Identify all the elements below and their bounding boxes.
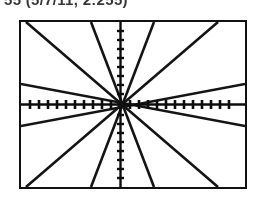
header-text: 55 (5/7/11, 2:255) [4, 0, 128, 8]
graph-viewport [19, 20, 247, 189]
calculator-screenshot: 55 (5/7/11, 2:255) [0, 0, 266, 197]
header-strip: 55 (5/7/11, 2:255) [0, 0, 266, 13]
graph-plot [21, 22, 245, 187]
origin-point [117, 101, 123, 107]
x-axis [21, 100, 245, 109]
